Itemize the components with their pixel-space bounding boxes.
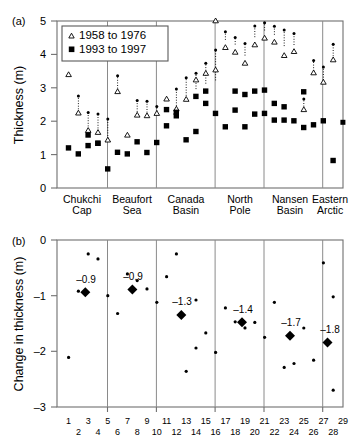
panel-a-ylabel: Thickness (m): [12, 66, 26, 144]
xtick-label-19: 19: [240, 416, 250, 426]
xtick-label-11: 11: [162, 416, 171, 426]
panel-b-yticks: 0 –1 –2 –3: [34, 234, 57, 413]
legend-square-icon: [69, 47, 75, 53]
xtick-label-9: 9: [144, 416, 149, 426]
panel-a-ytick-2: 2: [40, 115, 46, 127]
xtick-label-15: 15: [201, 416, 211, 426]
xtick-label-26: 26: [309, 427, 319, 437]
xtick-label-23: 23: [279, 416, 289, 426]
xtick-label-16: 16: [211, 427, 221, 437]
panel-b-mean-labels: –0.9 –0.9 –1.3 –1.4 –1.7 –1.8: [76, 271, 340, 335]
xtick-label-28: 28: [328, 427, 338, 437]
legend: 1958 to 1976 1993 to 1997: [62, 26, 168, 61]
mean-label-beaufort: –0.9: [123, 271, 143, 282]
xtick-label-5: 5: [105, 416, 110, 426]
panel-a-ytick-3: 3: [40, 82, 46, 94]
mean-label-chukchi: –0.9: [76, 274, 96, 285]
region-label-4-line2: Basin: [277, 204, 303, 216]
diamond-marker-chukchi: [80, 287, 90, 297]
diamond-marker-nansen: [285, 331, 295, 341]
diamond-marker-beaufort: [127, 285, 137, 295]
xtick-label-3: 3: [86, 416, 91, 426]
panel-b-ytick-3: –3: [34, 401, 46, 413]
region-label-3-line2: Pole: [229, 204, 250, 216]
panel-a-ytick-1: 1: [40, 149, 46, 161]
xtick-label-7: 7: [125, 416, 130, 426]
region-label-5-line2: Arctic: [317, 204, 343, 216]
panel-b: (b) 0 –1 –2 –3 Change in thickness (m): [12, 234, 348, 437]
xtick-label-8: 8: [135, 427, 140, 437]
panel-b-ytick-1: –1: [34, 290, 46, 302]
legend-label-0: 1958 to 1976: [79, 29, 146, 41]
panel-a-label: (a): [12, 15, 25, 27]
xtick-label-17: 17: [220, 416, 230, 426]
panel-a-region-labels: Chukchi Cap Beaufort Sea Canada Basin No…: [63, 193, 348, 216]
panel-b-xticks: [108, 407, 323, 412]
panel-b-ytick-2: –2: [34, 345, 46, 357]
xtick-label-10: 10: [152, 427, 162, 437]
panel-a-yticks: 5 4 3 2 1 0: [40, 15, 57, 194]
panel-a: (a) 5 4 3 2 1 0 Thickness (m): [12, 15, 348, 216]
mean-label-nansen: –1.7: [281, 317, 301, 328]
figure-svg: (a) 5 4 3 2 1 0 Thickness (m): [0, 0, 351, 446]
region-label-0-line2: Cap: [72, 204, 91, 216]
panel-a-ytick-5: 5: [40, 15, 46, 27]
xtick-label-2: 2: [76, 427, 81, 437]
panel-b-xticklabels: 1 2 3 4 5 6 7 8 9 10 11 12 13 14 15 16 1…: [66, 416, 348, 437]
diamond-marker-canada: [176, 310, 186, 320]
xtick-label-13: 13: [181, 416, 191, 426]
diamond-marker-eastern: [323, 337, 333, 347]
mean-label-northpole: –1.4: [233, 304, 253, 315]
region-label-1-line2: Sea: [123, 204, 142, 216]
panel-b-label: (b): [12, 235, 25, 247]
xtick-label-21: 21: [260, 416, 270, 426]
panel-b-ylabel: Change in thickness (m): [12, 257, 26, 392]
xtick-label-14: 14: [191, 427, 201, 437]
figure-container: (a) 5 4 3 2 1 0 Thickness (m): [0, 0, 351, 446]
xtick-label-6: 6: [115, 427, 120, 437]
xtick-label-4: 4: [95, 427, 100, 437]
panel-b-region-means: [80, 285, 332, 348]
panel-b-ytick-0: 0: [40, 234, 46, 246]
diamond-marker-northpole: [237, 317, 247, 327]
xtick-label-12: 12: [171, 427, 181, 437]
xtick-label-27: 27: [318, 416, 328, 426]
region-label-2-line2: Basin: [173, 204, 199, 216]
xtick-label-22: 22: [269, 427, 279, 437]
xtick-label-18: 18: [230, 427, 240, 437]
panel-a-ytick-0: 0: [40, 182, 46, 194]
xtick-label-24: 24: [289, 427, 299, 437]
xtick-label-20: 20: [250, 427, 260, 437]
mean-label-eastern: –1.8: [320, 324, 340, 335]
mean-label-canada: –1.3: [172, 296, 192, 307]
xtick-label-29: 29: [338, 416, 348, 426]
xtick-label-25: 25: [299, 416, 309, 426]
panel-a-ytick-4: 4: [40, 48, 46, 60]
xtick-label-1: 1: [66, 416, 71, 426]
legend-label-1: 1993 to 1997: [79, 43, 146, 55]
